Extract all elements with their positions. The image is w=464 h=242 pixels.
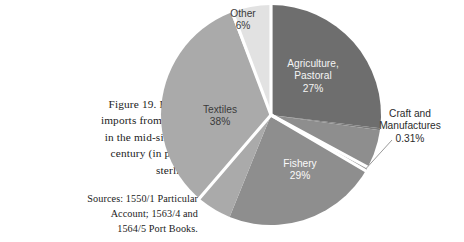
pie-chart: Agriculture, Pastoral 27% Fishery 29% Te… bbox=[160, 0, 464, 242]
pie-chart-svg bbox=[160, 0, 464, 242]
pie-slice-agriculture bbox=[271, 5, 381, 128]
figure-page: Figure 19. Bristol's imports from Irelan… bbox=[0, 0, 464, 242]
